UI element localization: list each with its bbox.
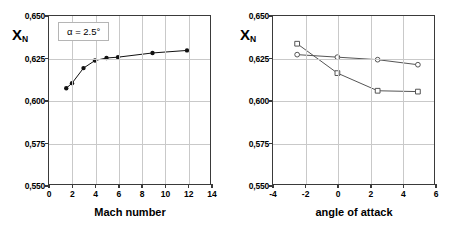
series-layer-aoa	[273, 16, 434, 184]
x-tick-mark	[141, 184, 143, 188]
gridline-vertical	[403, 16, 404, 184]
y-tick-label: 0,625	[25, 54, 45, 64]
x-tick-label: 6	[116, 189, 121, 199]
y-tick-mark	[269, 58, 273, 60]
y-tick-mark	[45, 15, 49, 17]
x-tick-mark	[435, 184, 437, 188]
x-tick-mark	[272, 184, 274, 188]
y-tick-label: 0,575	[25, 139, 45, 149]
x-tick-label: 8	[140, 189, 145, 199]
x-tick-label: -4	[269, 189, 277, 199]
y-axis-label-right-main: X	[240, 26, 250, 43]
x-tick-label: 0	[47, 189, 52, 199]
x-tick-mark	[95, 184, 97, 188]
gridline-vertical	[142, 16, 143, 184]
y-axis-label-right-sub: N	[250, 34, 256, 44]
y-tick-mark	[45, 143, 49, 145]
y-axis-label-left-main: X	[12, 26, 22, 43]
x-tick-mark	[165, 184, 167, 188]
y-tick-mark	[45, 100, 49, 102]
y-tick-label: 0,575	[249, 139, 269, 149]
x-tick-mark	[403, 184, 405, 188]
x-tick-label: 2	[368, 189, 373, 199]
x-tick-label: 10	[161, 189, 170, 199]
annotation-alpha: α = 2.5°	[58, 22, 109, 41]
y-tick-label: 0,650	[25, 11, 45, 21]
x-tick-mark	[305, 184, 307, 188]
gridline-horizontal	[273, 144, 434, 145]
data-point	[295, 41, 300, 46]
x-tick-mark	[48, 184, 50, 188]
y-axis-label-right: XN	[240, 27, 256, 42]
y-tick-label: 0,600	[249, 96, 269, 106]
x-tick-label: 0	[336, 189, 341, 199]
angle-of-attack-panel: XN 0,5500,5750,6000,6250,650-4-20246 M =…	[226, 0, 451, 234]
x-tick-label: 2	[70, 189, 75, 199]
y-tick-mark	[269, 143, 273, 145]
data-point	[150, 51, 154, 55]
x-tick-mark	[72, 184, 74, 188]
gridline-vertical	[338, 16, 339, 184]
x-axis-label-left: Mach number	[94, 206, 166, 218]
gridline-vertical	[306, 16, 307, 184]
mach-number-panel: XN 0,5500,5750,6000,6250,65002468101214 …	[0, 0, 226, 234]
y-tick-label: 0,550	[249, 181, 269, 191]
y-axis-label-left-sub: N	[22, 34, 28, 44]
gridline-vertical	[189, 16, 190, 184]
plot-area-aoa: 0,5500,5750,6000,6250,650-4-20246	[272, 15, 435, 185]
y-tick-label: 0,650	[249, 11, 269, 21]
x-tick-label: 4	[93, 189, 98, 199]
series-line	[297, 44, 418, 92]
x-tick-mark	[188, 184, 190, 188]
gridline-vertical	[96, 16, 97, 184]
gridline-horizontal	[273, 59, 434, 60]
y-tick-label: 0,600	[25, 96, 45, 106]
x-tick-label: 12	[184, 189, 193, 199]
x-tick-label: 14	[207, 189, 216, 199]
y-tick-mark	[269, 15, 273, 17]
gridline-vertical	[72, 16, 73, 184]
data-point	[416, 89, 421, 94]
y-tick-label: 0,625	[249, 54, 269, 64]
data-point	[295, 52, 300, 57]
x-tick-mark	[118, 184, 120, 188]
y-tick-mark	[45, 58, 49, 60]
x-tick-label: -2	[302, 189, 310, 199]
x-tick-label: 4	[401, 189, 406, 199]
x-tick-mark	[370, 184, 372, 188]
y-tick-label: 0,550	[25, 181, 45, 191]
y-tick-mark	[269, 100, 273, 102]
gridline-vertical	[119, 16, 120, 184]
x-tick-mark	[211, 184, 213, 188]
x-tick-mark	[337, 184, 339, 188]
data-point	[416, 62, 421, 67]
data-point	[375, 88, 380, 93]
gridline-vertical	[165, 16, 166, 184]
data-point	[81, 66, 85, 70]
x-axis-label-right: angle of attack	[315, 206, 392, 218]
series-line	[297, 55, 418, 65]
gridline-horizontal	[273, 101, 434, 102]
data-point	[64, 86, 68, 90]
y-axis-label-left: XN	[12, 27, 28, 42]
gridline-vertical	[371, 16, 372, 184]
x-tick-label: 6	[434, 189, 439, 199]
